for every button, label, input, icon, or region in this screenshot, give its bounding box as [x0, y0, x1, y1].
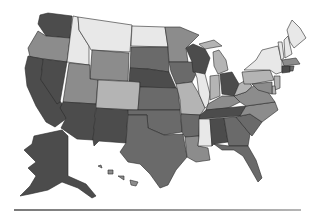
state-ar — [181, 114, 200, 137]
state-fl — [214, 144, 262, 182]
state-co — [96, 80, 140, 110]
state-nm — [93, 108, 128, 146]
state-wy — [90, 50, 129, 81]
state-ak — [20, 130, 96, 198]
state-nd — [131, 26, 168, 47]
state-hi — [98, 165, 138, 186]
state-ny — [244, 46, 282, 74]
baseline-divider — [14, 209, 301, 211]
state-pa — [242, 70, 274, 84]
us-map — [0, 0, 328, 214]
state-in — [210, 75, 220, 100]
state-de — [272, 86, 276, 94]
state-ct — [282, 66, 290, 73]
state-ri — [290, 66, 294, 71]
state-ma — [282, 58, 300, 66]
state-ms — [198, 119, 212, 146]
state-ks — [138, 87, 180, 110]
